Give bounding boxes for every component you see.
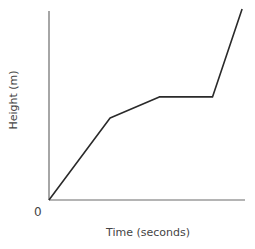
height-line (49, 9, 242, 200)
x-axis-label: Time (seconds) (105, 226, 190, 239)
y-axis-label: Height (m) (7, 70, 20, 129)
chart: 0 Time (seconds) Height (m) (0, 0, 255, 249)
origin-label: 0 (34, 205, 42, 219)
